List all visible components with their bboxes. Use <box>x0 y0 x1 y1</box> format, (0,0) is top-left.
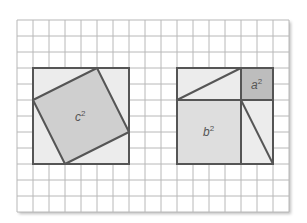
right-figure: a2 b2 <box>177 68 273 164</box>
pythagorean-diagram: c2 a2 b2 <box>0 0 307 223</box>
left-figure: c2 <box>33 68 129 164</box>
